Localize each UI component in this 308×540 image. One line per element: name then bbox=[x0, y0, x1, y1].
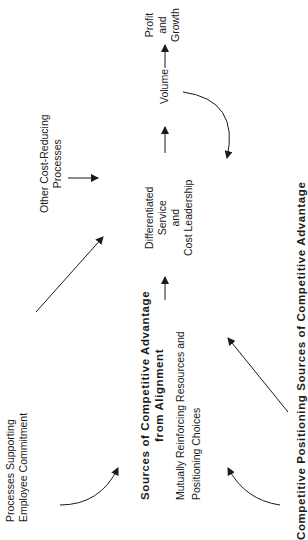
employee-line-2: Employee Commitment bbox=[17, 413, 30, 522]
alignment-title-line-2: from Alignment bbox=[152, 291, 166, 500]
diff-line-2: Service bbox=[156, 180, 169, 256]
employee-line-1: Processes Supporting bbox=[4, 413, 17, 522]
curved-arrow-employee-to-alignment bbox=[60, 468, 118, 505]
alignment-sub-line-2: Positioning Choices bbox=[188, 291, 204, 500]
curved-arrow-volume-to-diff bbox=[183, 92, 229, 158]
profit-line-2: and bbox=[156, 8, 169, 42]
node-alignment: Sources of Competitive Advantage from Al… bbox=[138, 291, 204, 500]
node-employee-commitment: Processes Supporting Employee Commitment bbox=[4, 413, 30, 522]
alignment-title-line-1: Sources of Competitive Advantage bbox=[138, 291, 152, 500]
node-volume: Volume bbox=[158, 69, 171, 104]
alignment-sub-line-1: Mutually Reinforcing Resources and bbox=[172, 291, 188, 500]
other-cost-line-2: Processes bbox=[51, 114, 64, 213]
volume-label: Volume bbox=[158, 69, 171, 104]
positioning-label: Competitive Positioning Sources of Compe… bbox=[294, 182, 308, 540]
profit-line-1: Profit bbox=[143, 8, 156, 42]
arrow-positioning-to-diff bbox=[228, 338, 288, 412]
curved-arrow-positioning-to-alignment bbox=[228, 468, 280, 505]
profit-line-3: Growth bbox=[169, 8, 182, 42]
node-profit-growth: Profit and Growth bbox=[143, 8, 182, 42]
diff-line-4: Cost Leadership bbox=[182, 180, 195, 256]
node-competitive-positioning: Competitive Positioning Sources of Compe… bbox=[294, 182, 308, 540]
diff-line-3: and bbox=[169, 180, 182, 256]
alignment-subtitle: Mutually Reinforcing Resources and Posit… bbox=[172, 291, 204, 500]
other-cost-line-1: Other Cost-Reducing bbox=[38, 114, 51, 213]
diff-line-1: Differentiated bbox=[143, 180, 156, 256]
node-differentiated-service: Differentiated Service and Cost Leadersh… bbox=[143, 180, 195, 256]
node-other-cost-reducing: Other Cost-Reducing Processes bbox=[38, 114, 64, 213]
alignment-title: Sources of Competitive Advantage from Al… bbox=[138, 291, 166, 500]
arrow-employee-to-diff bbox=[36, 237, 103, 312]
